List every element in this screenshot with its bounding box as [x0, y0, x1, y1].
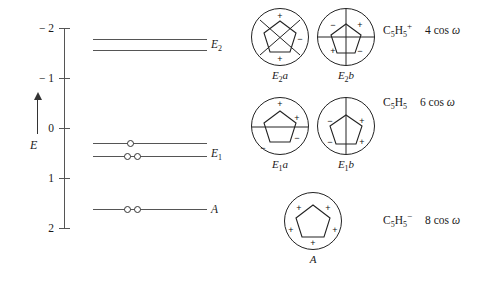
- formula-cation-fn: cos: [434, 24, 449, 36]
- level-line-e2-upper: [93, 39, 207, 40]
- axis-tick-zero: [59, 128, 70, 129]
- formula-species-anion: C5H5−: [383, 214, 412, 226]
- formula-anion-h: H: [395, 214, 403, 226]
- energy-arrow-shaft-icon: [37, 96, 38, 134]
- orbital-e2b-label-letter: E: [338, 69, 345, 81]
- formula-anion-coeff: 8: [425, 214, 431, 226]
- electron-e1-lower-2: [134, 153, 141, 160]
- formula-species-neutral: C5H5: [383, 96, 407, 108]
- electron-a-2: [134, 206, 141, 213]
- level-line-a: [93, 209, 207, 210]
- orbital-a-label: A: [284, 253, 342, 265]
- formula-row-anion: C5H5−8 cos ω: [383, 212, 460, 229]
- formula-anion-c: C: [383, 214, 391, 226]
- orbital-a-label-letter: A: [310, 253, 317, 265]
- formula-row-cation: C5H5+4 cos ω: [383, 22, 460, 39]
- orbital-e1a-sign-top: +: [277, 100, 282, 109]
- orbital-e2a-sign-top: +: [277, 12, 282, 21]
- orbital-e1b-sign-left-upper: −: [327, 117, 332, 126]
- formula-anion-charge: −: [407, 211, 412, 221]
- formula-cation-h: H: [395, 24, 403, 36]
- orbital-e1a-label-suffix: a: [283, 158, 289, 170]
- axis-label-minus1: − 1: [22, 73, 54, 85]
- formula-neutral-coeff: 6: [420, 96, 426, 108]
- orbital-a-sign-top-left: +: [296, 204, 301, 213]
- orbital-e1a-sign-bottom-left: −: [260, 144, 265, 153]
- orbital-e2a-sign-right: −: [297, 35, 302, 44]
- axis-tick-minus1: [59, 78, 70, 79]
- axis-tick-one: [59, 178, 70, 179]
- electron-a-1: [124, 206, 131, 213]
- orbital-e2b-sign-bottom-right: −: [357, 47, 362, 56]
- orbital-a-sign-top-right: +: [325, 204, 330, 213]
- orbital-e2a: + − + E2a: [251, 8, 309, 66]
- axis-tick-minus2: [59, 28, 70, 29]
- orbital-e1b-label: E1b: [317, 158, 375, 173]
- formula-row-neutral: C5H56 cos ω: [383, 97, 455, 111]
- molecular-orbital-diagram: − 2 − 1 0 1 2 E E2 E1 A: [0, 0, 492, 284]
- level-tag-e2-letter: E: [211, 38, 218, 50]
- orbital-e1b-label-letter: E: [338, 158, 345, 170]
- orbital-e1b-shape: [317, 97, 375, 155]
- orbital-e2a-sign-bottom: +: [277, 55, 282, 64]
- formula-cation-c: C: [383, 24, 391, 36]
- axis-label-minus2: − 2: [22, 23, 54, 35]
- electron-e1-lower-1: [124, 153, 131, 160]
- orbital-e1b-sign-left-lower: −: [327, 138, 332, 147]
- orbital-e2b-sign-top-right: +: [357, 21, 362, 30]
- orbital-e2b-label: E2b: [317, 69, 375, 84]
- formula-expr-neutral: 6 cos ω: [420, 97, 455, 109]
- energy-axis-group: − 2 − 1 0 1 2 E: [0, 0, 230, 284]
- formula-neutral-c: C: [383, 96, 391, 108]
- level-line-e2-lower: [93, 50, 207, 51]
- formula-anion-sub2: 5: [403, 220, 407, 229]
- formula-anion-fn: cos: [434, 214, 449, 226]
- orbital-e2b: − + + − E2b: [317, 8, 375, 66]
- orbital-e2a-label: E2a: [251, 69, 309, 84]
- electron-e1-upper-1: [127, 140, 134, 147]
- orbital-e1a-sign-bottom-right: −: [294, 134, 299, 143]
- orbital-e1b-label-suffix: b: [349, 158, 355, 170]
- level-tag-e2-sub: 2: [218, 44, 222, 53]
- formula-neutral-var: ω: [447, 96, 455, 108]
- axis-label-zero: 0: [22, 123, 54, 135]
- orbital-e1b: − + − + E1b: [317, 97, 375, 155]
- orbital-e2b-shape: [317, 8, 375, 66]
- orbital-e2b-label-suffix: b: [349, 69, 355, 81]
- formula-anion-var: ω: [452, 214, 460, 226]
- formula-expr-cation: 4 cos ω: [425, 25, 460, 37]
- orbital-e2a-label-letter: E: [272, 69, 279, 81]
- level-tag-a-letter: A: [211, 203, 218, 215]
- level-tag-e1-letter: E: [211, 147, 218, 159]
- axis-label-one: 1: [22, 173, 54, 185]
- level-tag-a: A: [211, 204, 218, 216]
- formula-neutral-fn: cos: [429, 96, 444, 108]
- orbital-e1a: + + − − E1a: [251, 97, 309, 155]
- orbital-e1a-label: E1a: [251, 158, 309, 173]
- formula-neutral-h: H: [395, 96, 403, 108]
- orbital-e2a-label-suffix: a: [283, 69, 289, 81]
- level-tag-e1-sub: 1: [218, 153, 222, 162]
- orbital-a-sign-bottom: +: [310, 239, 315, 248]
- formula-expr-anion: 8 cos ω: [425, 215, 460, 227]
- orbital-a: + + + + + A: [284, 192, 342, 250]
- orbital-e1a-label-letter: E: [272, 158, 279, 170]
- level-line-e1-lower: [93, 156, 207, 157]
- level-tag-e2: E2: [211, 39, 222, 53]
- orbital-e1b-sign-right-lower: +: [359, 138, 364, 147]
- formula-neutral-sub2: 5: [403, 102, 407, 111]
- orbital-e1b-sign-right-upper: +: [359, 117, 364, 126]
- formula-species-cation: C5H5+: [383, 24, 412, 36]
- formula-cation-sub2: 5: [403, 30, 407, 39]
- level-tag-e1: E1: [211, 148, 222, 162]
- energy-axis-label: E: [30, 138, 37, 153]
- formula-cation-coeff: 4: [425, 24, 431, 36]
- orbital-e2b-sign-top-left: −: [330, 21, 335, 30]
- level-line-e1-upper: [93, 143, 207, 144]
- orbital-e1a-sign-top-right: +: [294, 114, 299, 123]
- orbital-a-sign-right: +: [332, 226, 337, 235]
- axis-tick-two: [59, 228, 70, 229]
- orbital-a-sign-left: +: [288, 226, 293, 235]
- formula-cation-var: ω: [452, 24, 460, 36]
- formula-cation-charge: +: [407, 21, 412, 31]
